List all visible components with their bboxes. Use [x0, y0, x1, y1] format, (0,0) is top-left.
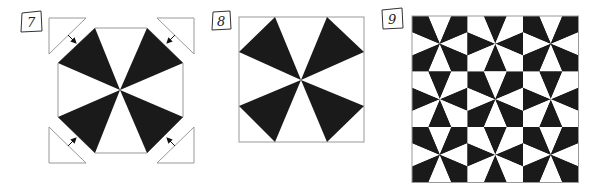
- label-7-box: 7: [21, 11, 42, 32]
- arrow-icon: [167, 35, 175, 43]
- quilt-diagram: 7 8 9: [0, 0, 616, 186]
- label-8: 8: [217, 14, 225, 29]
- arrow-icon: [167, 138, 175, 146]
- block-grid: [412, 16, 579, 183]
- panel-9: 9: [382, 8, 579, 183]
- arrow-icon: [68, 35, 76, 43]
- panel-8: 8: [212, 11, 364, 142]
- label-9-box: 9: [382, 8, 403, 29]
- label-7: 7: [27, 15, 36, 30]
- label-9: 9: [388, 12, 396, 27]
- label-8-box: 8: [212, 11, 231, 30]
- arrow-icon: [68, 138, 76, 146]
- panel-7: 7: [21, 11, 194, 163]
